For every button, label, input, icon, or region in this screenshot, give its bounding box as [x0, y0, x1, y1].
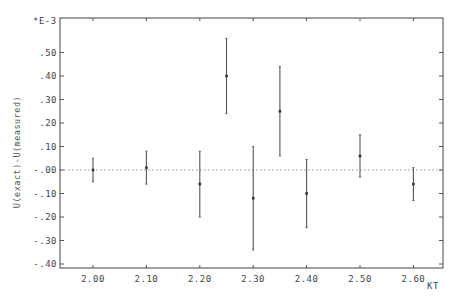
data-point: [252, 147, 255, 250]
y-tick-label: .10: [39, 142, 57, 152]
y-scale-label: *E-3: [33, 16, 57, 26]
data-point: [199, 151, 202, 217]
point-marker: [145, 166, 148, 169]
data-point: [279, 67, 282, 156]
point-marker: [359, 155, 362, 158]
point-marker: [225, 75, 228, 78]
x-axis-label: KT: [427, 281, 439, 291]
x-tick-label: 2.20: [188, 274, 212, 284]
point-marker: [92, 169, 95, 172]
y-tick-label: .50: [39, 48, 57, 58]
x-tick-label: 2.10: [135, 274, 159, 284]
x-tick-label: 2.40: [295, 274, 319, 284]
x-tick-label: 2.60: [402, 274, 426, 284]
data-point: [145, 151, 148, 184]
y-tick-label: -.10: [33, 189, 57, 199]
y-tick-label: .40: [39, 71, 57, 81]
y-tick-label: -.40: [33, 259, 57, 269]
point-marker: [412, 183, 415, 186]
data-point: [359, 135, 362, 177]
x-tick-label: 2.30: [241, 274, 265, 284]
y-tick-label: -.30: [33, 236, 57, 246]
point-marker: [279, 110, 282, 113]
y-tick-label: -.20: [33, 212, 57, 222]
plot-frame: [60, 18, 443, 268]
point-marker: [305, 192, 308, 195]
data-point: [305, 159, 308, 227]
data-point: [92, 158, 95, 182]
errorbar-chart: .50.40.30.20.10-.00-.10-.20-.30-.40 2.00…: [0, 0, 457, 305]
x-tick-label: 2.00: [81, 274, 105, 284]
y-tick-label: .30: [39, 95, 57, 105]
x-tick-label: 2.50: [348, 274, 372, 284]
point-marker: [252, 197, 255, 200]
point-marker: [199, 183, 202, 186]
y-tick-label: .20: [39, 118, 57, 128]
y-tick-label: -.00: [33, 165, 57, 175]
data-point: [225, 38, 228, 113]
y-axis-label: U(exact)-U(measured): [12, 96, 22, 208]
data-points: [92, 38, 415, 250]
data-point: [412, 168, 415, 201]
plot-border: [60, 18, 443, 268]
y-axis-ticks: .50.40.30.20.10-.00-.10-.20-.30-.40: [33, 48, 443, 270]
